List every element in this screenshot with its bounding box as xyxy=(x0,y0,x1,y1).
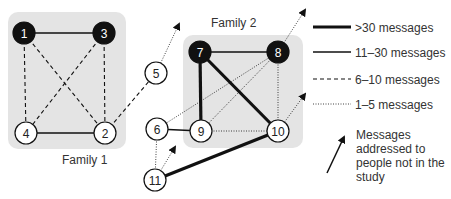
family-1-label: Family 1 xyxy=(62,153,108,167)
node-label: 8 xyxy=(275,46,282,60)
note-line: addressed to xyxy=(356,142,445,156)
legend-arrow-note: Messages addressed to people not in the … xyxy=(356,128,445,184)
family-2-label: Family 2 xyxy=(211,16,257,30)
note-line: Messages xyxy=(356,128,445,142)
node-10: 10 xyxy=(267,120,289,142)
node-5: 5 xyxy=(145,62,167,84)
node-label: 4 xyxy=(23,127,30,141)
node-4: 4 xyxy=(15,122,37,144)
legend-label: 1–5 messages xyxy=(355,98,433,112)
node-11: 11 xyxy=(144,169,166,191)
node-9: 9 xyxy=(190,120,212,142)
node-label: 11 xyxy=(149,174,162,188)
legend-arrow-icon xyxy=(327,137,344,173)
node-3: 3 xyxy=(93,22,115,44)
node-label: 2 xyxy=(102,127,109,141)
arrow-from-5-icon xyxy=(161,24,179,63)
node-label: 5 xyxy=(153,67,160,81)
node-8: 8 xyxy=(267,41,289,63)
node-1: 1 xyxy=(13,22,35,44)
note-line: people not in the xyxy=(356,156,445,170)
node-2: 2 xyxy=(94,122,116,144)
edge-7-9 xyxy=(200,52,201,131)
arrow-from-11-icon xyxy=(161,147,175,171)
node-6: 6 xyxy=(146,118,168,140)
node-label: 1 xyxy=(21,27,28,41)
node-label: 3 xyxy=(101,27,108,41)
node-label: 10 xyxy=(271,125,285,139)
node-7: 7 xyxy=(189,41,211,63)
node-label: 6 xyxy=(154,123,161,137)
legend-label: 6–10 messages xyxy=(355,73,440,87)
legend-label: 11–30 messages xyxy=(355,46,446,60)
note-line: study xyxy=(356,170,445,184)
node-label: 9 xyxy=(198,125,205,139)
node-label: 7 xyxy=(197,46,204,60)
family-groups: Family 1Family 2 xyxy=(8,12,303,167)
legend-label: >30 messages xyxy=(355,21,433,35)
